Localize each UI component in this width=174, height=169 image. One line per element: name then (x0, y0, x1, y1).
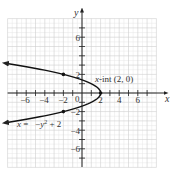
origin-label: 0 (75, 94, 80, 104)
x-tick-label: −4 (39, 95, 49, 105)
x-tick-label: 4 (117, 95, 122, 105)
y-tick-label: −6 (70, 144, 80, 154)
x-tick-label: 6 (136, 95, 141, 105)
y-tick-label: −4 (70, 126, 80, 136)
x-intercept-annotation: x-int (2, 0) (94, 74, 133, 84)
x-tick-labels: −6 −4 −2 2 4 6 (20, 95, 140, 105)
marked-point (62, 110, 66, 114)
y-axis-label: y (73, 7, 79, 18)
equation-annotation: x = −y2 + 2 (16, 119, 61, 130)
x-axis-label: x (164, 93, 170, 104)
x-tick-label: 2 (98, 95, 103, 105)
y-tick-label: 2 (76, 70, 81, 80)
y-tick-label: 6 (76, 33, 81, 43)
marked-point (62, 73, 66, 77)
parabola-graph: −6 −4 −2 2 4 6 6 2 −2 −4 −6 0 x y x-int … (0, 0, 174, 169)
x-tick-label: −2 (58, 95, 68, 105)
x-tick-label: −6 (20, 95, 30, 105)
y-tick-label: −2 (70, 107, 80, 117)
